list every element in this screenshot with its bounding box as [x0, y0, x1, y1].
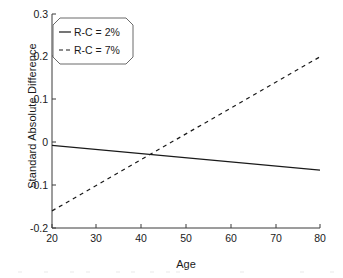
- legend-label-1: R-C = 7%: [74, 44, 120, 56]
- chart-figure: Standard Absolute Difference 0.3 0.2 0.1…: [0, 0, 343, 278]
- x-axis-ticks: [52, 224, 320, 228]
- plot-area: R-C = 2% R-C = 7%: [0, 0, 343, 278]
- series-line-solid: [52, 145, 320, 170]
- series-line-dashed: [52, 57, 320, 211]
- legend-label-0: R-C = 2%: [74, 26, 120, 38]
- legend-box: [53, 18, 133, 64]
- scan-artifact: [0, 268, 343, 278]
